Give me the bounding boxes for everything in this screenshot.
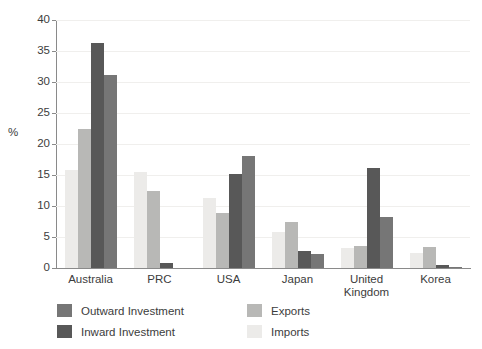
bar-group	[56, 20, 125, 268]
bar	[410, 253, 423, 269]
legend-label: Outward Investment	[81, 305, 184, 317]
legend-label: Inward Investment	[81, 326, 175, 338]
bar-group-bars	[194, 20, 263, 268]
bar	[91, 43, 104, 268]
legend-label: Imports	[271, 326, 309, 338]
bar	[160, 263, 173, 268]
y-axis-tick-label: 0	[24, 262, 50, 274]
y-axis-tick-label: 35	[24, 45, 50, 57]
bar-group-bars	[263, 20, 332, 268]
bar	[229, 174, 242, 268]
y-axis-title: %	[8, 126, 18, 138]
bar	[354, 246, 367, 268]
y-axis-tick-label: 5	[24, 231, 50, 243]
bar	[104, 75, 117, 268]
bar	[341, 248, 354, 268]
bar	[449, 267, 462, 268]
bar	[285, 222, 298, 269]
x-axis-category-label-line: PRC	[125, 273, 194, 286]
bar	[298, 251, 311, 268]
y-axis-tick-label: 10	[24, 200, 50, 212]
x-axis-category-label-line: Australia	[56, 273, 125, 286]
bar	[242, 156, 255, 268]
legend-item: Outward Investment	[57, 304, 247, 317]
x-axis-category-label-line: Kingdom	[332, 286, 401, 299]
x-axis-line	[56, 268, 471, 269]
bar	[380, 217, 393, 268]
x-axis-category-label: Japan	[263, 273, 332, 286]
bar-group-bars	[401, 20, 470, 268]
bar	[216, 213, 229, 268]
bar	[436, 265, 449, 268]
bar	[65, 170, 78, 268]
legend-swatch	[247, 325, 262, 338]
y-axis-tick	[52, 268, 56, 269]
legend-swatch	[247, 304, 262, 317]
bar-group	[194, 20, 263, 268]
x-axis-category-label: Australia	[56, 273, 125, 286]
y-axis-tick-label: 25	[24, 107, 50, 119]
y-axis-tick-label: 30	[24, 76, 50, 88]
bar-group	[401, 20, 470, 268]
bar-group	[125, 20, 194, 268]
bar-group	[263, 20, 332, 268]
bar-group	[332, 20, 401, 268]
y-axis-tick-label: 40	[24, 14, 50, 26]
bar-chart: % 0510152025303540 AustraliaPRCUSAJapanU…	[0, 0, 482, 349]
x-axis-category-label-line: Japan	[263, 273, 332, 286]
x-axis-category-label-line: Korea	[401, 273, 470, 286]
legend-item: Inward Investment	[57, 325, 247, 338]
bar	[78, 129, 91, 269]
y-axis-tick-label: 20	[24, 138, 50, 150]
bar	[272, 232, 285, 268]
legend-swatch	[57, 325, 72, 338]
x-axis-category-label-line: United	[332, 273, 401, 286]
legend-item: Imports	[247, 325, 387, 338]
bar	[134, 172, 147, 268]
bar	[367, 168, 380, 268]
chart-legend: Outward InvestmentExportsInward Investme…	[57, 300, 387, 342]
bar	[423, 247, 436, 268]
bar-group-bars	[332, 20, 401, 268]
x-axis-category-label: UnitedKingdom	[332, 273, 401, 299]
x-axis-category-label: Korea	[401, 273, 470, 286]
plot-area	[56, 20, 470, 268]
legend-item: Exports	[247, 304, 387, 317]
bar-group-bars	[56, 20, 125, 268]
x-axis-category-label-line: USA	[194, 273, 263, 286]
y-axis-tick-label: 15	[24, 169, 50, 181]
legend-label: Exports	[271, 305, 310, 317]
x-axis-category-label: USA	[194, 273, 263, 286]
bar	[147, 191, 160, 269]
bar	[203, 198, 216, 268]
x-axis-category-label: PRC	[125, 273, 194, 286]
legend-swatch	[57, 304, 72, 317]
bar-group-bars	[125, 20, 194, 268]
bar	[311, 254, 324, 268]
y-axis-tick-labels: 0510152025303540	[22, 20, 50, 269]
